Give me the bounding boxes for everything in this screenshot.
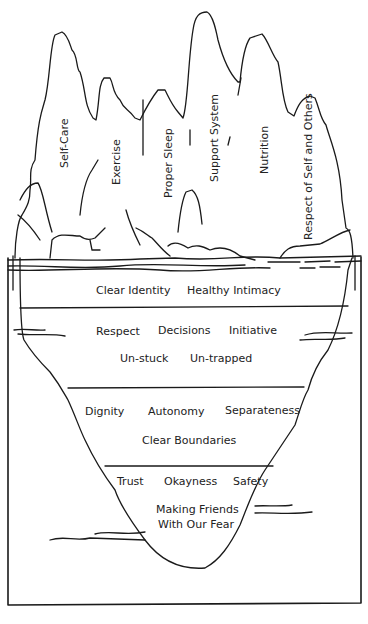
label-healthy-intimacy: Healthy Intimacy (187, 284, 281, 297)
label-autonomy: Autonomy (148, 405, 204, 418)
peak-label-support-system: Support System (208, 94, 221, 182)
peak-label-exercise: Exercise (110, 139, 123, 185)
label-trust: Trust (117, 475, 144, 488)
water-frame (8, 257, 361, 605)
peak-label-respect-of-self-and-others: Respect of Self and Others (302, 93, 315, 240)
layer-divider-1 (20, 306, 348, 308)
label-un-trapped: Un-trapped (190, 352, 252, 365)
label-initiative: Initiative (229, 324, 277, 337)
label-okayness: Okayness (164, 475, 217, 488)
layer-divider-2 (68, 387, 304, 388)
label-decisions: Decisions (158, 324, 211, 337)
label-dignity: Dignity (85, 405, 124, 418)
label-clear-boundaries: Clear Boundaries (142, 434, 236, 447)
label-safety: Safety (233, 475, 268, 488)
label-un-stuck: Un-stuck (120, 352, 168, 365)
label-making-friends: Making Friends (156, 503, 236, 516)
label-respect: Respect (96, 325, 140, 338)
peak-label-proper-sleep: Proper Sleep (162, 128, 175, 198)
label-clear-identity: Clear Identity (96, 284, 170, 297)
waterline (8, 256, 361, 260)
peak-label-nutrition: Nutrition (258, 126, 271, 174)
label-separateness: Separateness (225, 404, 300, 417)
label-with-our-fear: With Our Fear (156, 518, 236, 531)
peak-label-self-care: Self-Care (58, 118, 71, 168)
